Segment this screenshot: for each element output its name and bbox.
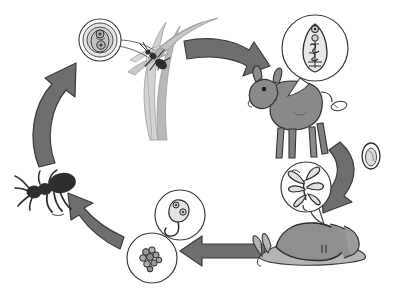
diagram-canvas — [0, 0, 407, 307]
life-cycle-diagram: Lancet liver fluke (Dicrocoelium) life c… — [0, 0, 407, 307]
fluke-egg-icon — [362, 143, 380, 169]
slime-ball-icon — [127, 233, 177, 283]
